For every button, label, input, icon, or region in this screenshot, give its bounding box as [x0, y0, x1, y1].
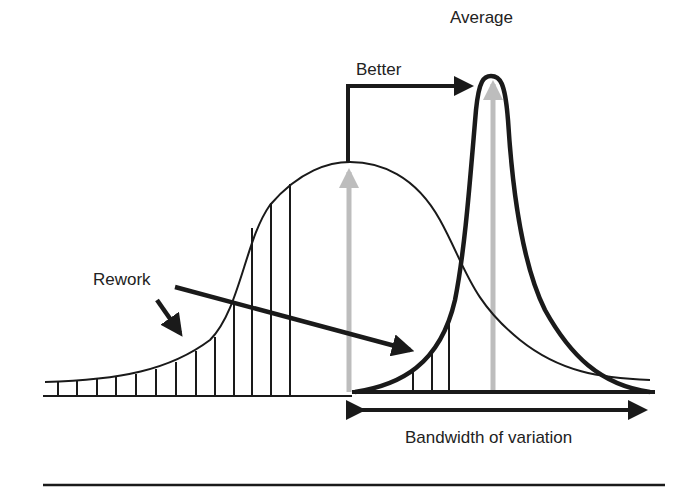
better-shift-arrow — [348, 86, 470, 162]
rework-arrow-short — [157, 300, 180, 333]
narrow-distribution-curve — [355, 76, 650, 392]
rework-label: Rework — [93, 270, 151, 290]
variation-diagram — [0, 0, 687, 492]
rework-hatching-left — [58, 184, 290, 396]
bandwidth-label: Bandwidth of variation — [405, 428, 572, 448]
better-label: Better — [356, 60, 401, 80]
average-label: Average — [450, 8, 513, 28]
